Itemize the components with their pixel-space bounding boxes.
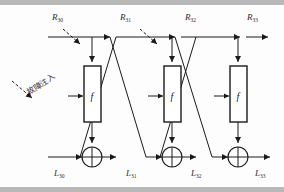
- label-R31-base: R: [120, 12, 126, 22]
- label-L30: L30: [54, 168, 65, 178]
- label-R30-sub: 30: [58, 17, 64, 23]
- label-L33-sub: 33: [260, 173, 266, 179]
- label-R33-base: R: [247, 12, 253, 22]
- stage-1: f: [68, 37, 102, 167]
- stage-2: f: [148, 37, 182, 167]
- label-R32-sub: 32: [191, 17, 197, 23]
- figure-canvas: f f f: [0, 0, 284, 192]
- feistel-diagram: f f f: [0, 0, 284, 192]
- label-R31-sub: 31: [126, 17, 132, 23]
- label-R32-base: R: [185, 12, 191, 22]
- label-R33-sub: 33: [253, 17, 259, 23]
- label-R32: R32: [185, 12, 196, 22]
- stage-3: f: [214, 37, 248, 167]
- label-R31: R31: [120, 12, 131, 22]
- label-R33: R33: [247, 12, 258, 22]
- label-L30-sub: 30: [59, 173, 65, 179]
- label-R30: R30: [52, 12, 63, 22]
- label-R30-base: R: [52, 12, 58, 22]
- label-L31: L31: [126, 168, 137, 178]
- label-L32-sub: 32: [196, 173, 202, 179]
- label-L32: L32: [191, 168, 202, 178]
- label-L31-sub: 31: [131, 173, 137, 179]
- label-L33: L33: [255, 168, 266, 178]
